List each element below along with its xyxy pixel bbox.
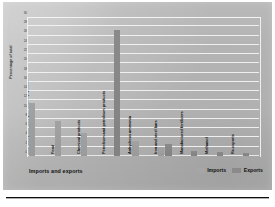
bar-exports <box>191 151 197 156</box>
plot-area: Machinery and transportation equipmentFo… <box>27 17 259 156</box>
bar-exports <box>114 30 120 156</box>
chart-legend: ImportsExports <box>196 167 263 173</box>
figure-container: Percentage of total 02468101214161820222… <box>0 0 275 207</box>
bar-imports <box>158 147 164 156</box>
bar-group: Machinery and transportation equipment <box>29 17 55 156</box>
category-label: Food <box>51 145 55 154</box>
bar-imports <box>29 103 35 156</box>
legend-item[interactable]: Imports <box>196 167 227 173</box>
bar-exports <box>243 153 249 156</box>
legend-item[interactable]: Exports <box>232 167 263 173</box>
category-label: Methanol <box>205 137 209 154</box>
legend-swatch-imports-icon <box>196 168 205 173</box>
bar-imports <box>132 141 138 156</box>
y-axis-ticks: 024681012141618202224262830 <box>16 17 27 156</box>
bar-group: Manufactured fertilizers <box>184 17 210 156</box>
category-label: Machinery and transportation equipment <box>27 80 29 154</box>
category-label: Chemical products <box>77 120 81 154</box>
category-label: Petroleum and petroleum products <box>102 91 106 154</box>
category-label: Re-exports <box>231 134 235 154</box>
bar-group: Re-exports <box>235 17 259 156</box>
category-label: Manufactured fertilizers <box>180 111 184 154</box>
category-label: Iron and steel bars <box>154 120 158 154</box>
y-axis-tick-label: 30 <box>24 12 27 15</box>
footer-rule-shadow <box>6 198 269 199</box>
category-label: Anhydrous ammonia <box>128 116 132 154</box>
legend-swatch-exports-icon <box>232 168 241 173</box>
bar-imports <box>81 133 87 156</box>
y-axis-title: Percentage of total <box>9 27 13 97</box>
x-axis-title: Imports and exports <box>29 168 83 174</box>
bar-imports <box>55 121 61 156</box>
bar-exports <box>165 144 171 156</box>
legend-label: Imports <box>207 167 226 173</box>
bar-exports <box>217 152 223 156</box>
legend-label: Exports <box>244 167 263 173</box>
